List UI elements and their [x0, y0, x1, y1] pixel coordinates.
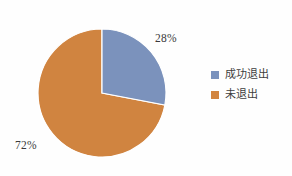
pie-chart-figure: 28% 72% 成功退出 未退出	[0, 0, 292, 176]
legend-item-successful-exit[interactable]: 成功退出	[211, 66, 289, 84]
chart-legend: 成功退出 未退出	[211, 66, 289, 106]
legend-label-successful-exit: 成功退出	[225, 69, 269, 81]
pie-label-not-exited: 72%	[15, 139, 37, 151]
legend-swatch-orange-icon	[211, 91, 219, 99]
legend-label-not-exited: 未退出	[225, 89, 258, 101]
legend-item-not-exited[interactable]: 未退出	[211, 86, 289, 104]
legend-swatch-blue-icon	[211, 71, 219, 79]
pie-label-successful-exit: 28%	[155, 32, 177, 44]
